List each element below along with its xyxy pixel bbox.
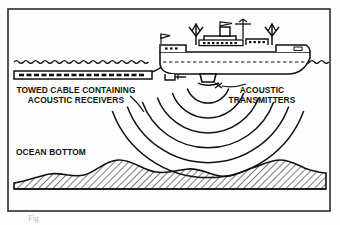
ship-hull [160, 52, 310, 74]
towed-cable-label-line1: TOWED CABLE CONTAINING [16, 85, 135, 95]
page-background [0, 0, 340, 225]
ship-funnel [220, 27, 230, 36]
figure-caption: Fig. [28, 214, 41, 223]
acoustic-transmitters-label-line1: ACOUSTIC [240, 85, 285, 95]
label-ocean-bottom: OCEAN BOTTOM [16, 147, 86, 157]
stern-deckhouse [160, 45, 186, 52]
towed-cable-label-line2: ACOUSTIC RECEIVERS [28, 95, 125, 105]
ocean-bottom-label: OCEAN BOTTOM [16, 147, 86, 157]
ship-forecastle [276, 45, 310, 52]
acoustic-transmitters-label-line2: TRANSMITTERS [229, 95, 296, 105]
transmitter-pod-main [200, 74, 216, 82]
diagram-canvas: TOWED CABLE CONTAINING ACOUSTIC RECEIVER… [0, 0, 340, 225]
stern-portholes [165, 47, 178, 49]
figure-container: TOWED CABLE CONTAINING ACOUSTIC RECEIVER… [0, 0, 340, 225]
